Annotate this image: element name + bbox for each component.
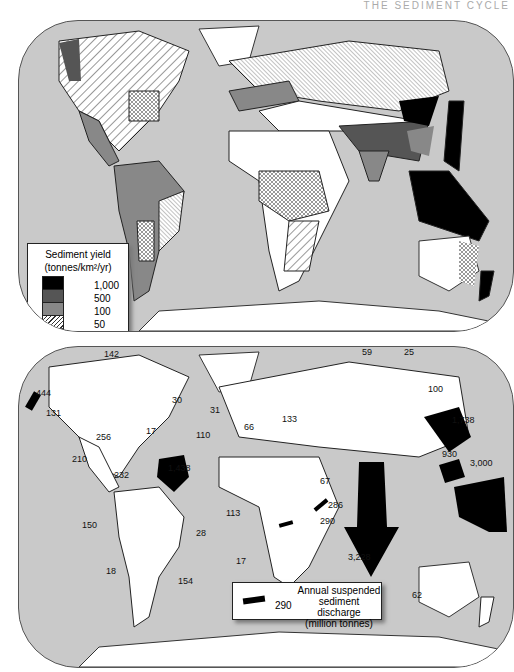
discharge-label: 31 xyxy=(210,405,220,415)
legend-line-3: (million tonnes) xyxy=(297,618,381,629)
legend-line-1: Annual suspended xyxy=(297,585,381,596)
discharge-label: 930 xyxy=(442,449,457,459)
discharge-label: 286 xyxy=(328,500,343,510)
discharge-label: 59 xyxy=(362,347,372,357)
discharge-label: 100 xyxy=(428,384,443,394)
discharge-label: 444 xyxy=(36,388,51,398)
discharge-label: 142 xyxy=(104,349,119,359)
discharge-label: 131 xyxy=(46,408,61,418)
discharge-label: 28 xyxy=(196,528,206,538)
legend-label-100: 100 xyxy=(94,306,111,317)
running-title: THE SEDIMENT CYCLE xyxy=(364,0,510,11)
discharge-label: 290 xyxy=(320,516,335,526)
sediment-yield-map: Sediment yield (tonnes/km²/yr) 1,000 500… xyxy=(18,20,514,332)
legend-label-1000: 1,000 xyxy=(94,280,119,291)
legend-swatch-10 xyxy=(42,328,64,332)
legend-label-50: 50 xyxy=(94,319,105,330)
sediment-yield-legend: Sediment yield (tonnes/km²/yr) 1,000 500… xyxy=(27,243,129,332)
discharge-label: 256 xyxy=(96,432,111,442)
legend-label-500: 500 xyxy=(94,293,111,304)
discharge-label: 210 xyxy=(72,454,87,464)
discharge-label: 17 xyxy=(236,556,246,566)
discharge-label: 232 xyxy=(114,470,129,480)
discharge-label: 17 xyxy=(146,426,156,436)
discharge-label: 150 xyxy=(82,520,97,530)
discharge-label: 3,228 xyxy=(348,552,371,562)
discharge-label: 1,738 xyxy=(452,415,475,425)
discharge-label: 67 xyxy=(320,476,330,486)
legend-line-2: sediment discharge xyxy=(297,596,381,618)
discharge-label: 3,000 xyxy=(470,458,493,468)
discharge-label: 110 xyxy=(196,430,210,440)
arrow-icon xyxy=(243,595,266,604)
legend-title: Sediment yield xyxy=(28,248,128,261)
discharge-label: 66 xyxy=(244,422,254,432)
discharge-label: 154 xyxy=(178,576,193,586)
sediment-discharge-legend: 290 Annual suspended sediment discharge … xyxy=(232,582,382,620)
discharge-label: 18 xyxy=(106,566,116,576)
discharge-label: 1,438 xyxy=(168,463,191,473)
legend-units: (tonnes/km²/yr) xyxy=(28,261,128,274)
legend-example-value: 290 xyxy=(275,600,292,611)
discharge-label: 133 xyxy=(282,414,297,424)
discharge-label: 113 xyxy=(226,508,240,518)
discharge-label: 25 xyxy=(404,347,414,357)
discharge-label: 30 xyxy=(172,395,182,405)
discharge-label: 62 xyxy=(412,590,422,600)
